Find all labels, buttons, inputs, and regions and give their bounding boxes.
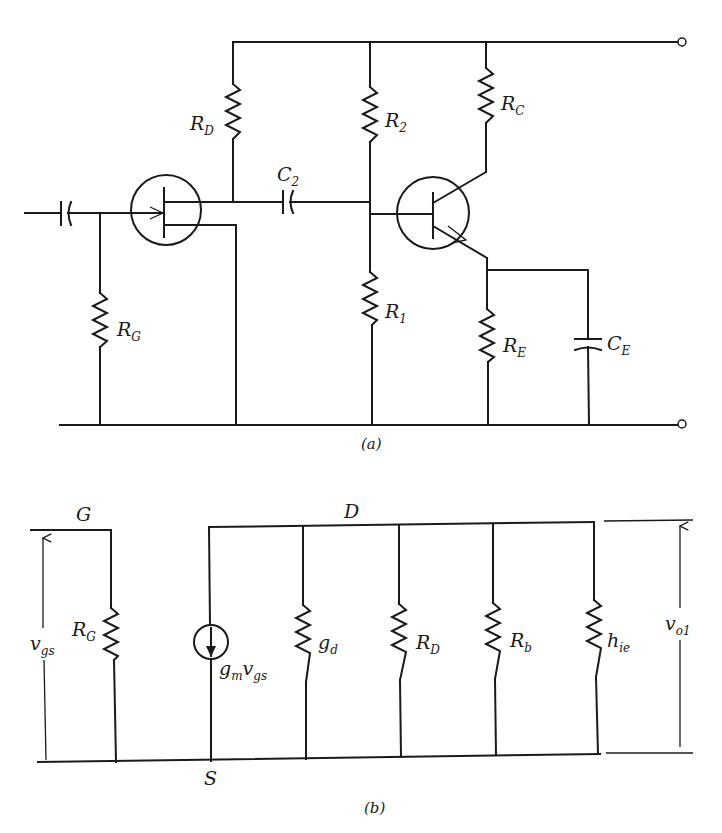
label-rd: RD: [189, 112, 214, 138]
vgs-arrow-lower: [44, 660, 46, 760]
resistor-rg: [93, 293, 107, 347]
resistor-gd: [296, 605, 310, 682]
label-rg-b: RG: [71, 618, 96, 644]
caption-b: (b): [364, 799, 385, 817]
source-node-wire: [38, 754, 600, 762]
circuit-a: RG RD C2 R2: [25, 38, 686, 453]
node-g: G: [76, 503, 91, 525]
resistor-rd-b: [392, 604, 406, 680]
label-vgs: vgs: [30, 632, 55, 658]
label-rg: RG: [116, 318, 141, 344]
label-vo1: vo1: [665, 612, 691, 638]
resistor-rd: [226, 84, 240, 139]
circuit-figure: RG RD C2 R2: [0, 0, 722, 833]
resistor-hie: [587, 600, 601, 677]
label-hie: hie: [607, 629, 630, 655]
resistor-re: [480, 309, 494, 362]
node-d: D: [343, 500, 359, 522]
label-rb: Rb: [509, 629, 532, 655]
caption-a: (a): [361, 435, 382, 453]
resistor-rg-b: [104, 608, 118, 660]
resistor-rc: [479, 68, 493, 123]
label-gd: gd: [318, 631, 338, 657]
label-ce: CE: [607, 332, 631, 358]
label-r2: R2: [384, 109, 407, 135]
resistor-r2: [363, 87, 377, 142]
label-rd-b: RD: [415, 631, 440, 657]
drain-node-wire: [209, 522, 594, 527]
resistor-r1: [363, 272, 377, 325]
label-rc: RC: [500, 92, 525, 118]
supply-terminal: [678, 38, 686, 46]
label-re: RE: [502, 334, 526, 360]
output-terminal: [678, 420, 686, 428]
resistor-rb: [486, 603, 500, 679]
label-r1: R1: [384, 300, 407, 326]
node-s: S: [204, 767, 217, 789]
label-gmvgs: gmvgs: [219, 657, 267, 683]
jfet-transistor: [131, 175, 236, 245]
current-source: [194, 625, 228, 659]
label-c2: C2: [277, 163, 299, 189]
circuit-b: G vgs RG D S gmvgs: [30, 500, 693, 817]
vo1-top-tick: [604, 520, 693, 521]
